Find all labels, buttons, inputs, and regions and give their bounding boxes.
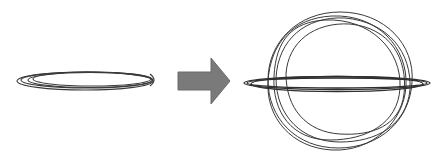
diagram-svg xyxy=(0,0,446,161)
expanded-rings-right xyxy=(268,12,412,150)
right-arrow-icon xyxy=(178,58,230,104)
flattened-rings-left xyxy=(17,72,154,90)
flattened-rings-right xyxy=(244,77,430,92)
diagram-canvas xyxy=(0,0,446,161)
